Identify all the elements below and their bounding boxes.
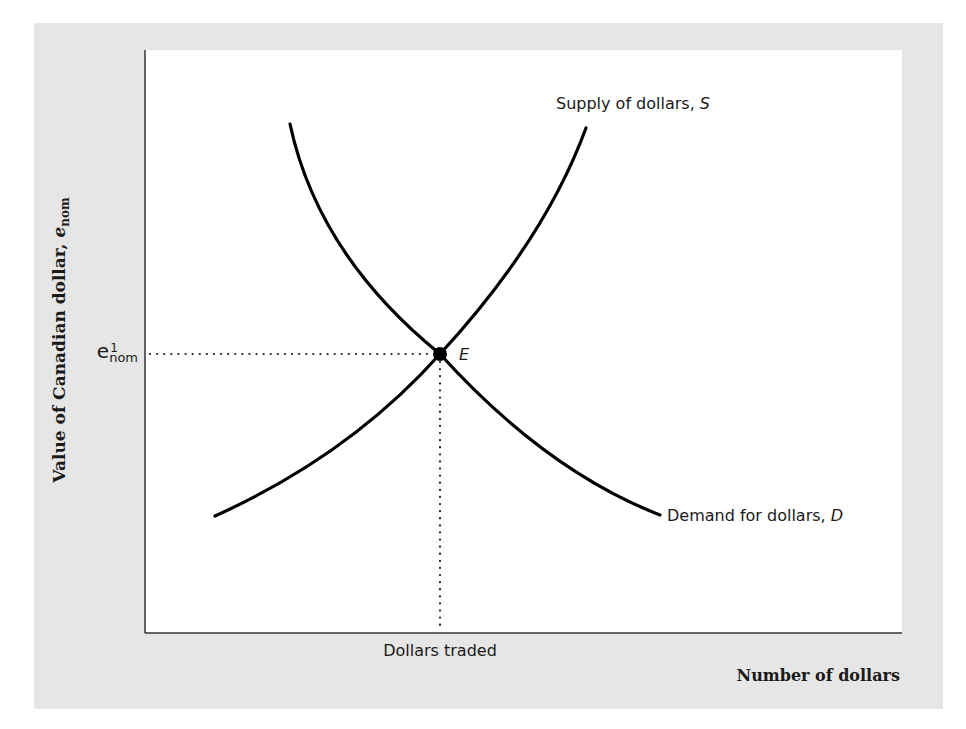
x-tick-dollars-traded: Dollars traded xyxy=(383,641,497,660)
y-axis-label-symbol: e xyxy=(49,227,69,238)
supply-curve xyxy=(215,128,586,516)
supply-label-text: Supply of dollars, xyxy=(556,94,700,113)
supply-curve-label: Supply of dollars, S xyxy=(556,94,710,113)
x-axis-label: Number of dollars xyxy=(737,666,901,685)
supply-label-var: S xyxy=(700,94,710,113)
demand-curve xyxy=(290,124,660,515)
chart-canvas xyxy=(0,0,966,729)
y-axis-label-text: Value of Canadian dollar, xyxy=(49,238,69,483)
y-axis-label-subscript: nom xyxy=(58,197,72,226)
equilibrium-label: E xyxy=(459,345,469,364)
y-axis-label: Value of Canadian dollar, enom xyxy=(49,197,72,482)
y-tick-symbol: e xyxy=(97,339,109,363)
demand-curve-label: Demand for dollars, D xyxy=(667,506,843,525)
demand-label-var: D xyxy=(831,506,843,525)
y-tick-subscript: nom xyxy=(109,351,138,364)
demand-label-text: Demand for dollars, xyxy=(667,506,831,525)
y-tick-scripts: 1nom xyxy=(109,342,138,364)
diagram-page: Value of Canadian dollar, enom Number of… xyxy=(0,0,966,729)
y-tick-e-nom-1: e1nom xyxy=(97,341,138,364)
equilibrium-point xyxy=(433,347,447,361)
